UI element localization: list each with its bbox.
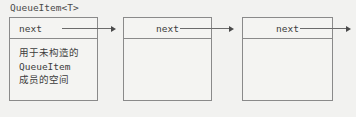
arrow-node3-outgoing-line [300, 28, 348, 29]
node-2-body [124, 39, 211, 101]
diagram-title: QueueItem<T> [10, 2, 79, 14]
arrow-node1-to-node2-head [111, 26, 116, 32]
node-1-body-line-1: 用于未构造的 [19, 46, 97, 60]
queue-item-node-2: next [123, 17, 212, 101]
node-3-body [243, 39, 332, 101]
arrow-node2-to-node3-head [229, 26, 234, 32]
node-1-body-line-3: 成员的空间 [19, 73, 97, 87]
node-1-body: 用于未构造的 QueueItem 成员的空间 [10, 39, 97, 101]
node-3-next-label: next [276, 23, 299, 34]
arrow-node1-to-node2-line [62, 28, 112, 29]
linked-list-diagram: QueueItem<T> next 用于未构造的 QueueItem 成员的空间… [0, 0, 356, 117]
node-2-next-label: next [156, 23, 179, 34]
queue-item-node-1: next 用于未构造的 QueueItem 成员的空间 [9, 17, 98, 101]
queue-item-node-3: next [242, 17, 333, 101]
arrow-node2-to-node3-line [180, 28, 230, 29]
node-1-body-line-2: QueueItem [19, 60, 97, 74]
arrow-node3-outgoing-head [346, 26, 351, 32]
node-1-next-label: next [19, 23, 42, 34]
